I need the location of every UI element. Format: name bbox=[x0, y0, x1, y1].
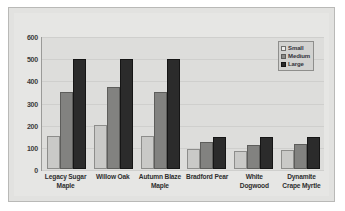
chart-legend: Small Medium Large bbox=[278, 41, 314, 71]
bar-medium[interactable] bbox=[60, 92, 73, 169]
y-axis-tick-label: 300 bbox=[27, 100, 38, 107]
y-axis-tick-label: 0 bbox=[34, 167, 38, 174]
y-axis-tick-label: 400 bbox=[27, 78, 38, 85]
x-axis-labels: Legacy Sugar MapleWillow OakAutumn Blaze… bbox=[42, 173, 325, 190]
bar-medium[interactable] bbox=[294, 144, 307, 169]
x-axis-category-label: Bradford Pear bbox=[184, 173, 231, 190]
x-axis-category-label: Dynamite Crape Myrtle bbox=[278, 173, 325, 190]
bar-group bbox=[43, 37, 90, 169]
chart-plot-background: 0100200300400500600 Legacy Sugar MapleWi… bbox=[14, 13, 329, 196]
bar-large[interactable] bbox=[260, 137, 273, 169]
bar-small[interactable] bbox=[281, 150, 294, 169]
bar-medium[interactable] bbox=[247, 145, 260, 169]
bar-group bbox=[183, 37, 230, 169]
legend-item-medium: Medium bbox=[281, 52, 310, 60]
bar-small[interactable] bbox=[234, 151, 247, 169]
legend-swatch-large-icon bbox=[281, 62, 286, 67]
legend-label-medium: Medium bbox=[288, 53, 310, 59]
bar-medium[interactable] bbox=[154, 92, 167, 169]
y-axis-tick-label: 600 bbox=[27, 34, 38, 41]
bar-medium[interactable] bbox=[107, 87, 120, 170]
legend-label-small: Small bbox=[288, 45, 304, 51]
bar-large[interactable] bbox=[307, 137, 320, 169]
bar-large[interactable] bbox=[73, 59, 86, 169]
legend-item-large: Large bbox=[281, 60, 310, 68]
bar-large[interactable] bbox=[120, 59, 133, 169]
gridline bbox=[42, 170, 324, 171]
x-axis-category-label: Willow Oak bbox=[89, 173, 136, 190]
legend-item-small: Small bbox=[281, 44, 310, 52]
bar-small[interactable] bbox=[187, 149, 200, 169]
bar-group bbox=[230, 37, 277, 169]
bar-medium[interactable] bbox=[200, 142, 213, 170]
bar-group bbox=[90, 37, 137, 169]
chart-container: 0100200300400500600 Legacy Sugar MapleWi… bbox=[8, 7, 335, 202]
legend-swatch-small-icon bbox=[281, 46, 286, 51]
bar-group bbox=[137, 37, 184, 169]
bar-large[interactable] bbox=[213, 137, 226, 169]
y-axis-tick-label: 200 bbox=[27, 122, 38, 129]
y-axis-tick-label: 100 bbox=[27, 144, 38, 151]
x-axis-category-label: Legacy Sugar Maple bbox=[42, 173, 89, 190]
legend-label-large: Large bbox=[288, 61, 304, 67]
bar-small[interactable] bbox=[47, 136, 60, 169]
bar-large[interactable] bbox=[167, 59, 180, 169]
x-axis-category-label: Autumn Blaze Maple bbox=[136, 173, 183, 190]
y-axis-tick-label: 500 bbox=[27, 56, 38, 63]
bar-small[interactable] bbox=[94, 125, 107, 169]
x-axis-category-label: White Dogwood bbox=[231, 173, 278, 190]
bar-small[interactable] bbox=[141, 136, 154, 169]
legend-swatch-medium-icon bbox=[281, 54, 286, 59]
